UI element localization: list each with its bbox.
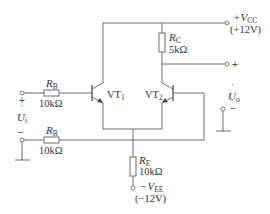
rb2-value: 10kΩ bbox=[39, 145, 63, 156]
input-minus-sign: − bbox=[18, 127, 24, 138]
output-plus-terminal bbox=[225, 62, 229, 66]
re-value: 10kΩ bbox=[139, 166, 163, 177]
vt2-base-wire bbox=[173, 93, 204, 140]
vcc-value: (+12V) bbox=[230, 24, 262, 36]
output-plus-line bbox=[162, 62, 229, 66]
output-minus-terminal bbox=[221, 107, 225, 111]
emitter-resistor-re bbox=[130, 129, 136, 190]
transistor-vt2 bbox=[162, 83, 173, 129]
rb1-label: RB bbox=[45, 77, 58, 91]
collector-resistor-rc bbox=[159, 23, 165, 83]
output-minus-branch bbox=[216, 107, 231, 131]
output-minus-sign: − bbox=[230, 103, 236, 114]
vcc-terminal bbox=[225, 21, 229, 25]
vee-label: −VEE bbox=[140, 180, 164, 194]
rc-value: 5kΩ bbox=[169, 44, 188, 55]
top-supply-rail bbox=[103, 21, 229, 83]
rc-label: RC bbox=[168, 31, 181, 45]
vee-terminal bbox=[131, 186, 135, 190]
vt2-label: VT2 bbox=[145, 89, 163, 102]
input-voltage-dot: ˙ bbox=[20, 103, 24, 114]
vcc-label: +VCC bbox=[233, 11, 257, 25]
output-plus-sign: + bbox=[232, 59, 238, 70]
differential-amplifier-schematic: +VCC (+12V) RC 5kΩ + RB 10kΩ + VT1 VT2 U… bbox=[0, 0, 270, 214]
vee-value: (−12V) bbox=[135, 193, 167, 205]
vt1-label: VT1 bbox=[107, 89, 125, 102]
input-minus-terminal bbox=[20, 138, 24, 142]
transistor-vt1 bbox=[92, 83, 103, 129]
output-voltage-dot: ˙ bbox=[231, 82, 235, 93]
rb1-value: 10kΩ bbox=[39, 98, 63, 109]
rb2-label: RB bbox=[45, 124, 58, 138]
